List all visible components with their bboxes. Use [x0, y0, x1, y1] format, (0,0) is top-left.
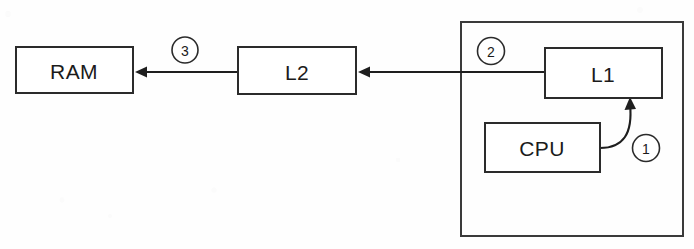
step-marker-3: 3 — [172, 37, 198, 63]
node-cpu-label: CPU — [519, 137, 565, 160]
node-l1-label: L1 — [591, 63, 615, 86]
step-marker-1-label: 1 — [642, 141, 650, 157]
diagram-canvas: RAM L2 L1 CPU 3 2 1 — [0, 0, 694, 249]
node-ram-label: RAM — [50, 60, 98, 83]
cache-hierarchy-diagram: RAM L2 L1 CPU 3 2 1 — [0, 0, 694, 249]
node-l1: L1 — [545, 48, 662, 98]
edge-l2-to-ram — [135, 67, 238, 78]
step-marker-1: 1 — [633, 135, 660, 162]
node-cpu: CPU — [485, 123, 600, 172]
node-ram: RAM — [16, 47, 133, 93]
edge-l1-to-l2 — [358, 67, 545, 78]
step-marker-2-label: 2 — [487, 44, 495, 60]
node-l2-label: L2 — [285, 61, 309, 84]
scan-texture — [5, 7, 643, 218]
step-marker-3-label: 3 — [181, 43, 189, 59]
step-marker-2: 2 — [478, 38, 505, 65]
node-l2: L2 — [238, 47, 356, 94]
edge-cpu-to-l1 — [600, 97, 636, 148]
